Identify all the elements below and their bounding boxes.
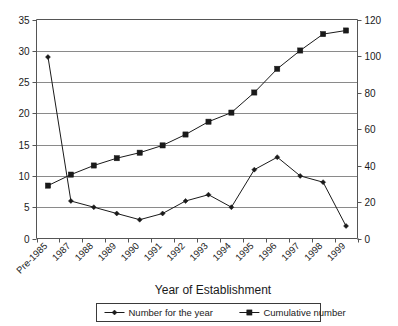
data-point-marker xyxy=(68,198,73,203)
data-point-marker xyxy=(298,48,303,53)
right-axis-ticks: 020406080100120 xyxy=(358,15,382,245)
left-axis-tick-label: 5 xyxy=(24,202,30,213)
chart-container: 05101520253035 020406080100120 Pre-19851… xyxy=(0,0,398,326)
data-point-marker xyxy=(344,223,349,228)
x-axis-category-label: 1989 xyxy=(95,240,118,263)
x-axis-category-labels: Pre-198519871988198919901991199219931994… xyxy=(14,240,347,275)
data-point-marker xyxy=(321,180,326,185)
x-axis-category-label: 1997 xyxy=(279,240,302,263)
data-point-marker xyxy=(183,132,188,137)
right-axis-tick-label: 120 xyxy=(365,15,382,26)
line-chart: 05101520253035 020406080100120 Pre-19851… xyxy=(0,0,398,326)
right-axis-tick-label: 0 xyxy=(365,234,371,245)
data-point-marker xyxy=(91,205,96,210)
data-point-marker xyxy=(45,183,50,188)
x-axis-category-label: 1999 xyxy=(325,240,348,263)
series-layer xyxy=(45,28,348,229)
left-axis-tick-label: 15 xyxy=(18,140,30,151)
x-axis-category-label: 1988 xyxy=(73,240,96,263)
series-1 xyxy=(45,55,348,229)
right-axis-tick-label: 100 xyxy=(365,51,382,62)
data-point-marker xyxy=(160,143,165,148)
left-axis-ticks: 05101520253035 xyxy=(18,15,36,245)
data-point-marker xyxy=(183,198,188,203)
data-point-marker xyxy=(137,217,142,222)
right-axis-tick-label: 20 xyxy=(365,197,377,208)
series-line xyxy=(48,31,346,186)
x-axis-category-label: 1996 xyxy=(256,240,279,263)
right-axis-tick-label: 80 xyxy=(365,88,377,99)
x-axis-category-label: 1998 xyxy=(302,240,325,263)
data-point-marker xyxy=(206,119,211,124)
data-point-marker xyxy=(114,156,119,161)
data-point-marker xyxy=(68,172,73,177)
x-axis-category-label: 1990 xyxy=(118,240,141,263)
data-point-marker xyxy=(343,28,348,33)
x-axis-category-label: 1994 xyxy=(210,240,233,263)
data-point-marker xyxy=(275,66,280,71)
x-axis-category-label: 1991 xyxy=(141,240,164,263)
data-point-marker xyxy=(252,167,257,172)
data-point-marker xyxy=(229,205,234,210)
legend-label: Cumulative number xyxy=(263,307,345,318)
left-axis-tick-label: 25 xyxy=(18,77,30,88)
axis-frame xyxy=(37,20,358,239)
data-point-marker xyxy=(206,192,211,197)
legend-label: Number for the year xyxy=(129,307,213,318)
data-point-marker xyxy=(229,110,234,115)
data-point-marker xyxy=(91,163,96,168)
left-axis-tick-label: 0 xyxy=(24,234,30,245)
x-axis-category-label: 1993 xyxy=(187,240,210,263)
left-axis-tick-label: 10 xyxy=(18,171,30,182)
legend-marker-square xyxy=(247,310,252,315)
gridlines xyxy=(37,52,358,208)
x-axis-category-label: 1987 xyxy=(50,240,73,263)
data-point-marker xyxy=(45,55,50,60)
x-axis-category-label: Pre-1985 xyxy=(14,240,49,275)
x-axis-category-label: 1992 xyxy=(164,240,187,263)
right-axis-tick-label: 40 xyxy=(365,161,377,172)
left-axis-tick-label: 30 xyxy=(18,46,30,57)
x-axis-title: Year of Establishment xyxy=(155,283,272,297)
data-point-marker xyxy=(252,90,257,95)
left-axis-tick-label: 35 xyxy=(18,15,30,26)
chart-legend: Number for the yearCumulative number xyxy=(97,304,346,322)
x-axis-category-label: 1995 xyxy=(233,240,256,263)
left-axis-tick-label: 20 xyxy=(18,108,30,119)
data-point-marker xyxy=(114,211,119,216)
data-point-marker xyxy=(137,150,142,155)
data-point-marker xyxy=(160,211,165,216)
data-point-marker xyxy=(321,32,326,37)
right-axis-tick-label: 60 xyxy=(365,124,377,135)
